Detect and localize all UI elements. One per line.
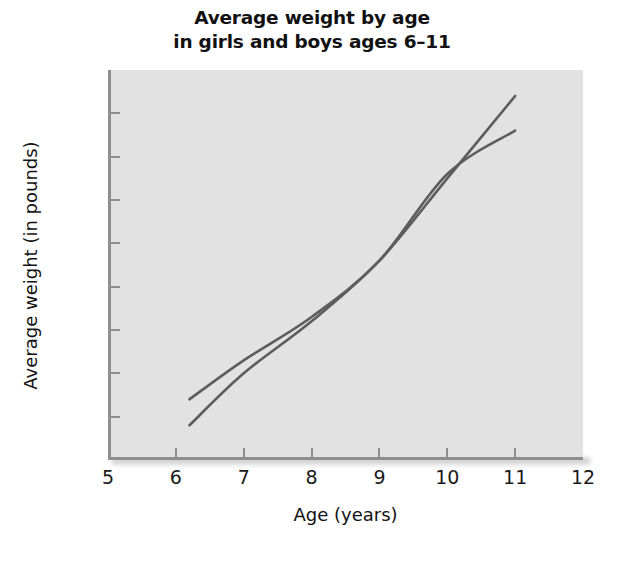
x-axis-tick-label: 9 bbox=[356, 466, 402, 488]
chart-figure: Average weight by age in girls and boys … bbox=[0, 0, 624, 562]
series-line-boys bbox=[189, 96, 515, 425]
y-axis-title: Average weight (in pounds) bbox=[20, 86, 41, 446]
chart-title: Average weight by age in girls and boys … bbox=[0, 6, 624, 53]
plot-area bbox=[108, 70, 583, 460]
x-axis-tick-label: 10 bbox=[424, 466, 470, 488]
x-axis-title: Age (years) bbox=[108, 504, 583, 525]
x-axis-tick-label: 6 bbox=[153, 466, 199, 488]
chart-title-line-1: Average weight by age bbox=[0, 6, 624, 30]
x-axis-tick-label: 8 bbox=[289, 466, 335, 488]
x-axis-tick-label: 7 bbox=[221, 466, 267, 488]
x-axis-tick-label: 12 bbox=[560, 466, 606, 488]
chart-title-line-2: in girls and boys ages 6–11 bbox=[0, 30, 624, 54]
x-axis-tick-label: 11 bbox=[492, 466, 538, 488]
series-lines bbox=[108, 70, 583, 460]
x-axis-tick-label: 5 bbox=[85, 466, 131, 488]
series-line-girls bbox=[189, 131, 515, 400]
x-axis-tick-labels: 56789101112 bbox=[108, 466, 583, 500]
